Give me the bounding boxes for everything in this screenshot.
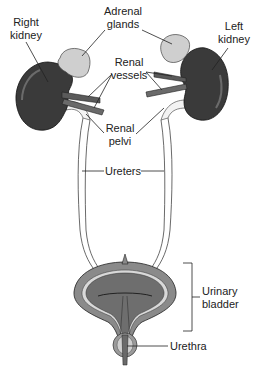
label-adrenal-glands-line2: glands: [100, 18, 146, 31]
label-left-kidney: Left kidney: [216, 20, 252, 46]
urethra-drawing: [113, 333, 137, 365]
label-renal-vessels-line2: vessels: [106, 69, 152, 82]
label-right-kidney: Right kidney: [8, 16, 44, 42]
urinary-bladder-drawing: [74, 254, 176, 345]
label-left-kidney-line1: Left: [216, 20, 252, 33]
label-urinary-bladder: Urinary bladder: [202, 285, 246, 311]
label-renal-vessels-line1: Renal: [106, 56, 152, 69]
left-kidney-drawing: [181, 48, 229, 120]
label-right-kidney-line2: kidney: [8, 29, 44, 42]
label-renal-vessels: Renal vessels: [106, 56, 152, 82]
label-right-kidney-line1: Right: [8, 16, 44, 29]
label-renal-pelvi: Renal pelvi: [100, 122, 140, 148]
label-ureters: Ureters: [104, 165, 142, 178]
label-adrenal-glands-line1: Adrenal: [100, 5, 146, 18]
label-renal-pelvi-line2: pelvi: [100, 135, 140, 148]
label-urinary-bladder-line1: Urinary: [202, 285, 246, 298]
label-adrenal-glands: Adrenal glands: [100, 5, 146, 31]
label-urinary-bladder-line2: bladder: [202, 298, 246, 311]
label-urethra: Urethra: [170, 340, 212, 353]
label-renal-pelvi-line1: Renal: [100, 122, 140, 135]
label-left-kidney-line2: kidney: [216, 33, 252, 46]
